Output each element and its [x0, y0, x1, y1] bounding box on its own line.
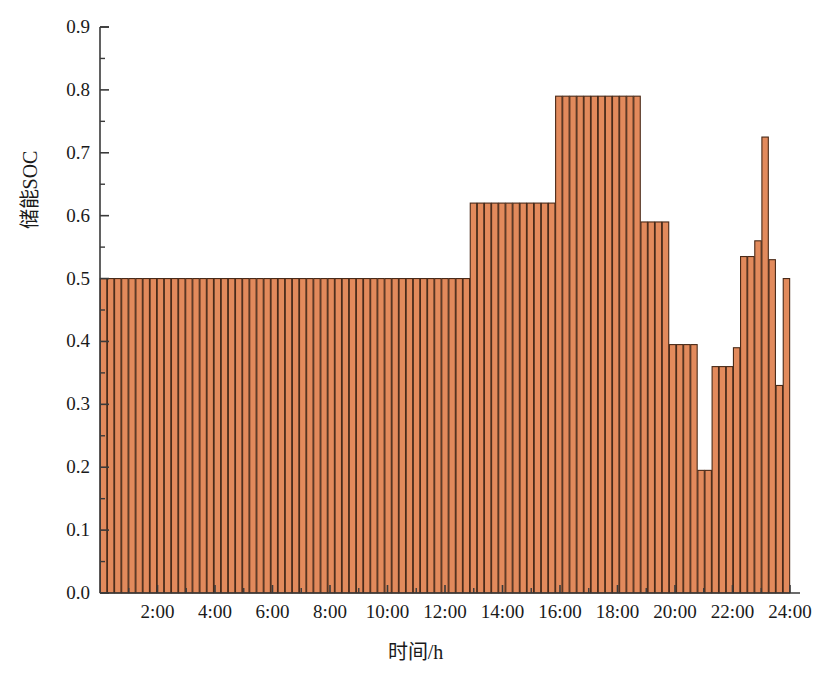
x-tick-label: 14:00	[481, 601, 524, 623]
x-axis-tick-labels: 2:004:006:008:0010:0012:0014:0016:0018:0…	[0, 0, 831, 682]
chart-figure: 储能SOC 0.00.10.20.30.40.50.60.70.80.9 2:0…	[0, 0, 831, 682]
x-tick-label: 18:00	[596, 601, 639, 623]
x-tick-label: 10:00	[366, 601, 409, 623]
x-axis-title: 时间/h	[0, 636, 831, 665]
x-tick-label: 20:00	[653, 601, 696, 623]
x-tick-label: 24:00	[768, 601, 811, 623]
x-tick-label: 6:00	[256, 601, 290, 623]
x-tick-label: 22:00	[711, 601, 754, 623]
x-tick-label: 4:00	[198, 601, 232, 623]
x-tick-label: 16:00	[538, 601, 581, 623]
x-tick-label: 8:00	[313, 601, 347, 623]
x-tick-label: 2:00	[141, 601, 175, 623]
x-tick-label: 12:00	[423, 601, 466, 623]
